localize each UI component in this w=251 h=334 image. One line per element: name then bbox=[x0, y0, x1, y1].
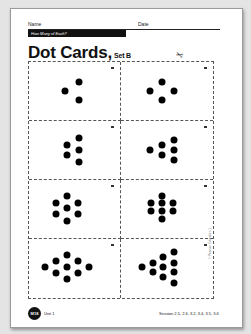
dot bbox=[42, 264, 49, 271]
dot bbox=[64, 142, 71, 149]
dot bbox=[171, 248, 178, 255]
dot bbox=[62, 88, 69, 95]
scissors-icon: ✂ bbox=[174, 48, 185, 60]
dot-card-5 bbox=[29, 121, 121, 180]
card-corner-mark-icon bbox=[111, 67, 114, 69]
dot bbox=[86, 264, 93, 271]
dot bbox=[76, 79, 83, 86]
dot bbox=[75, 199, 82, 206]
dot bbox=[139, 264, 146, 271]
dot bbox=[171, 147, 178, 154]
dot bbox=[147, 88, 154, 95]
dot bbox=[76, 135, 83, 142]
worksheet-page: Name Date How Many of Each? Dot Cards,Se… bbox=[10, 8, 243, 328]
dot bbox=[76, 147, 83, 154]
dot bbox=[160, 274, 167, 281]
dot-card-10 bbox=[121, 239, 213, 298]
card-corner-mark-icon bbox=[111, 185, 114, 187]
dot bbox=[75, 211, 82, 218]
page-number-badge: M18 bbox=[28, 307, 41, 320]
dot bbox=[76, 158, 83, 165]
unit-label: Unit 1 bbox=[44, 311, 54, 316]
dot-card-6 bbox=[121, 121, 213, 180]
dot bbox=[171, 269, 178, 276]
dot-card-4 bbox=[121, 62, 213, 121]
dot bbox=[76, 96, 83, 103]
dot bbox=[159, 193, 166, 200]
dot bbox=[64, 151, 71, 158]
card-corner-mark-icon bbox=[111, 244, 114, 246]
dot bbox=[53, 199, 60, 206]
dot bbox=[64, 193, 71, 200]
dot-card-8 bbox=[121, 180, 213, 239]
dot-card-7 bbox=[29, 180, 121, 239]
dot bbox=[170, 200, 177, 207]
dot bbox=[148, 208, 155, 215]
dot bbox=[64, 276, 71, 283]
dot bbox=[159, 79, 166, 86]
title-subtitle: Set B bbox=[114, 52, 131, 59]
dot bbox=[159, 208, 166, 215]
dot bbox=[159, 151, 166, 158]
dot bbox=[147, 147, 154, 154]
date-label: Date bbox=[138, 21, 149, 27]
dot bbox=[171, 279, 178, 286]
dot bbox=[150, 259, 157, 266]
dot bbox=[159, 200, 166, 207]
dot bbox=[53, 257, 60, 264]
dot-card-9 bbox=[29, 239, 121, 298]
dot bbox=[170, 208, 177, 215]
dot bbox=[75, 270, 82, 277]
dot bbox=[64, 251, 71, 258]
dot bbox=[160, 264, 167, 271]
title-main: Dot Cards, bbox=[28, 43, 112, 62]
card-corner-mark-icon bbox=[204, 185, 207, 187]
dot bbox=[159, 216, 166, 223]
dot bbox=[159, 96, 166, 103]
dot bbox=[64, 264, 71, 271]
dot bbox=[171, 136, 178, 143]
dot bbox=[159, 142, 166, 149]
copyright-text: © Pearson Education 1 bbox=[208, 228, 212, 259]
dot bbox=[75, 257, 82, 264]
dot bbox=[64, 205, 71, 212]
name-label: Name bbox=[28, 21, 41, 27]
dot bbox=[148, 200, 155, 207]
dot bbox=[171, 157, 178, 164]
activity-banner: How Many of Each? bbox=[28, 30, 126, 37]
session-list: Session 2.5, 2.6, 3.2, 3.4, 3.5, 3.6 bbox=[159, 311, 219, 316]
dot bbox=[171, 259, 178, 266]
dot bbox=[53, 211, 60, 218]
card-corner-mark-icon bbox=[204, 67, 207, 69]
dot-card-3 bbox=[29, 62, 121, 121]
card-corner-mark-icon bbox=[204, 244, 207, 246]
dot bbox=[53, 270, 60, 277]
card-corner-mark-icon bbox=[111, 126, 114, 128]
card-corner-mark-icon bbox=[204, 126, 207, 128]
page-title: Dot Cards,Set B bbox=[28, 43, 131, 63]
name-date-line: Name Date bbox=[28, 19, 220, 30]
dot bbox=[160, 254, 167, 261]
dot bbox=[150, 269, 157, 276]
dot bbox=[171, 88, 178, 95]
dot-card-grid bbox=[28, 61, 214, 299]
dot bbox=[64, 217, 71, 224]
